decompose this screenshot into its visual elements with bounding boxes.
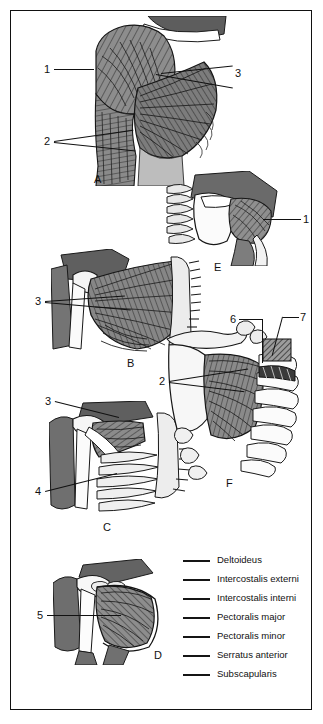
callout-number-1-panel-a: 1 [44, 63, 50, 75]
legend-item-intercostalis-externi: Intercostalis externi [173, 570, 321, 589]
legend-label-6: Serratus anterior [217, 646, 288, 663]
leader-line-f7-h [283, 317, 299, 318]
panel-f-figure [163, 311, 313, 483]
panel-letter-d: D [154, 649, 162, 661]
legend-item-deltoideus: Deltoideus [173, 551, 321, 570]
legend-dash-1 [183, 560, 210, 562]
leader-line-e1 [263, 219, 301, 220]
callout-number-3-panel-b: 3 [35, 295, 41, 307]
legend-label-3: Intercostalis interni [217, 589, 296, 606]
panel-letter-a: A [94, 173, 101, 185]
legend-dash-4 [183, 617, 210, 619]
leader-line-f6-h [239, 319, 263, 320]
legend-item-pectoralis-major: Pectoralis major [173, 608, 321, 627]
legend-dash-6 [183, 655, 210, 657]
callout-number-3-panel-a: 3 [235, 67, 241, 79]
legend-label-1: Deltoideus [217, 551, 262, 568]
panel-letter-c: C [103, 521, 111, 533]
legend-dash-5 [183, 636, 210, 638]
leader-line-f6-v [262, 319, 263, 363]
leader-line-d5 [47, 615, 121, 616]
legend-dash-7 [183, 674, 210, 676]
callout-number-2-panel-a: 2 [44, 135, 50, 147]
callout-number-2-panel-f: 2 [159, 375, 165, 387]
legend-item-subscapularis: Subscapularis [173, 665, 321, 684]
callout-number-1-panel-e: 1 [303, 213, 309, 225]
leader-line-a1 [54, 69, 94, 70]
panel-letter-e: E [214, 261, 221, 273]
callout-number-4-panel-c: 4 [35, 485, 41, 497]
panel-letter-f: F [226, 477, 233, 489]
legend-label-7: Subscapularis [217, 665, 277, 682]
callout-number-3-panel-c: 3 [45, 395, 51, 407]
anatomy-plate: A 1 2 3 [0, 0, 323, 724]
legend-label-4: Pectoralis major [217, 608, 285, 625]
legend: Deltoideus Intercostalis externi Interco… [173, 551, 321, 701]
callout-number-5-panel-d: 5 [37, 609, 43, 621]
callout-number-6-panel-f: 6 [230, 313, 236, 325]
panel-a-figure [56, 16, 236, 186]
legend-dash-3 [183, 598, 210, 600]
legend-label-5: Pectoralis minor [217, 627, 285, 644]
legend-dash-2 [183, 579, 210, 581]
legend-item-pectoralis-minor: Pectoralis minor [173, 627, 321, 646]
legend-item-intercostalis-interni: Intercostalis interni [173, 589, 321, 608]
legend-label-2: Intercostalis externi [217, 570, 299, 587]
legend-item-serratus-anterior: Serratus anterior [173, 646, 321, 665]
plate-frame: A 1 2 3 [10, 10, 312, 710]
callout-number-7-panel-f: 7 [300, 311, 306, 323]
panel-letter-b: B [127, 357, 134, 369]
